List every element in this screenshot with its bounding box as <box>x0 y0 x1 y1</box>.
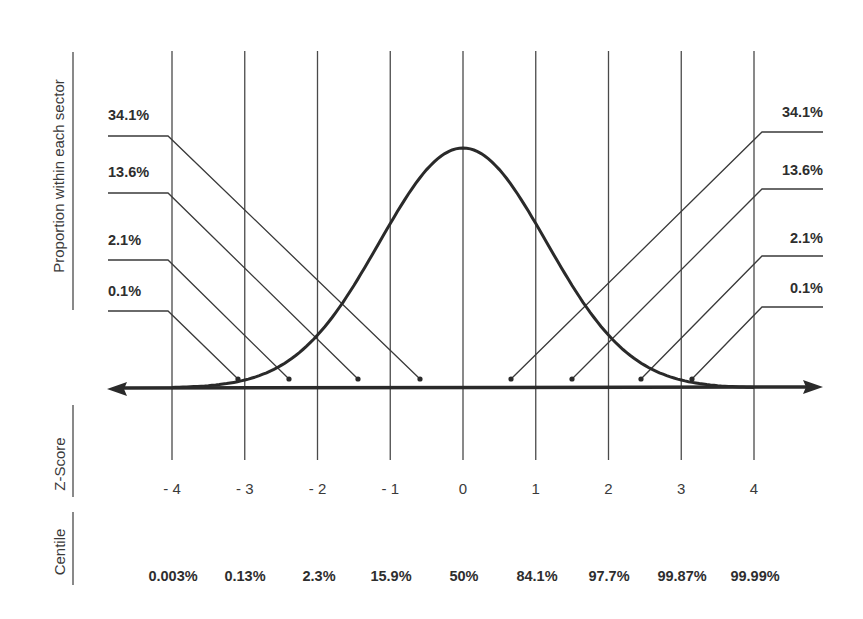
right-arrowhead-icon <box>803 380 823 394</box>
centile-label: 97.7% <box>588 568 629 584</box>
sector-label-left: 0.1% <box>108 283 141 299</box>
sector-dot <box>508 376 513 381</box>
leader-line-left <box>108 311 238 379</box>
z-score-label: 0 <box>459 480 467 497</box>
sector-dot <box>638 376 643 381</box>
z-score-label: 4 <box>750 480 758 497</box>
sector-label-right: 34.1% <box>782 104 823 120</box>
sector-label-right: 0.1% <box>790 280 823 296</box>
centile-row-label: Centile <box>51 529 68 576</box>
left-arrowhead-icon <box>107 382 127 396</box>
leader-line-left <box>108 193 358 379</box>
sector-dot <box>286 376 291 381</box>
sector-dot <box>569 376 574 381</box>
z-score-label: 1 <box>532 480 540 497</box>
centile-label: 0.003% <box>148 568 197 584</box>
sector-leader-lines <box>108 132 823 379</box>
sector-label-right: 13.6% <box>782 162 823 178</box>
sector-label-left: 13.6% <box>108 164 149 180</box>
proportion-axis-label: Proportion within each sector <box>50 79 67 272</box>
zscore-row-label: Z-Score <box>51 437 68 490</box>
sector-dot <box>689 376 694 381</box>
z-score-label: - 2 <box>309 480 327 497</box>
leader-line-left <box>108 260 289 379</box>
leader-line-right <box>572 189 823 379</box>
centile-label: 0.13% <box>224 568 265 584</box>
centile-label: 99.87% <box>657 568 706 584</box>
leader-line-left <box>108 136 420 379</box>
z-gridlines <box>172 51 754 460</box>
leader-line-right <box>641 256 823 379</box>
sector-dots <box>235 376 694 381</box>
sector-dot <box>417 376 422 381</box>
centile-label: 84.1% <box>516 568 557 584</box>
z-score-label: - 3 <box>236 480 254 497</box>
centile-label: 15.9% <box>370 568 411 584</box>
z-score-label: 3 <box>677 480 685 497</box>
z-score-label: - 4 <box>163 480 181 497</box>
centile-label: 99.99% <box>730 568 779 584</box>
normal-distribution-chart <box>0 0 863 619</box>
centile-label: 50% <box>449 568 478 584</box>
sector-label-left: 2.1% <box>108 232 141 248</box>
z-score-label: - 1 <box>381 480 399 497</box>
leader-line-right <box>692 307 823 379</box>
sector-dot <box>235 376 240 381</box>
z-score-label: 2 <box>604 480 612 497</box>
sector-dot <box>355 376 360 381</box>
centile-label: 2.3% <box>302 568 335 584</box>
x-axis-arrow <box>107 380 823 396</box>
sector-label-right: 2.1% <box>790 230 823 246</box>
sector-label-left: 34.1% <box>108 107 149 123</box>
